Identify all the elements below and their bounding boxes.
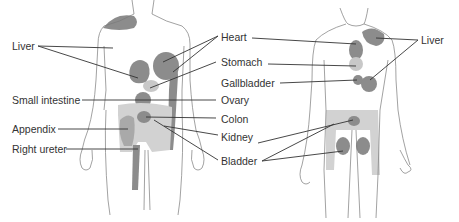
region-front-liver-upper-abdomen (129, 60, 149, 83)
back-neck-outline (340, 8, 368, 26)
label-appendix: Appendix (12, 123, 56, 135)
back-hand-left-outline (300, 165, 310, 184)
label-stomach: Stomach (221, 56, 262, 68)
label-liver-front: Liver (12, 40, 35, 52)
label-liver-back: Liver (421, 34, 444, 46)
front-head-neck-outline (132, 0, 154, 14)
region-back-stomach (349, 57, 363, 71)
leader-heart-back (252, 38, 356, 44)
label-bladder: Bladder (221, 155, 257, 167)
label-small-intestine: Small intestine (12, 94, 80, 106)
back-body (300, 8, 411, 218)
region-back-liver-lower (361, 76, 377, 92)
label-colon: Colon (221, 113, 248, 125)
label-gallbladder: Gallbladder (221, 77, 275, 89)
front-hand-left-outline (80, 150, 93, 170)
leader-liver-2 (38, 46, 138, 78)
label-kidney: Kidney (221, 131, 253, 143)
label-ovary: Ovary (221, 94, 249, 106)
leader-liver-1 (38, 46, 113, 48)
leader-bladder-back-1 (262, 124, 334, 161)
referred-pain-diagram: Liver Small intestine Appendix Right ure… (0, 0, 459, 222)
region-back-kidney-left (336, 137, 350, 155)
region-back-kidney-right (356, 137, 370, 155)
back-hand-right-outline (400, 150, 411, 173)
front-hand-right-outline (191, 150, 204, 170)
region-front-stomach (143, 80, 159, 92)
label-heart: Heart (221, 31, 247, 43)
front-body (80, 0, 204, 215)
label-right-ureter: Right ureter (12, 143, 67, 155)
region-front-ureter (132, 145, 140, 190)
region-front-liver-shoulder (103, 15, 137, 30)
leader-gallbladder (280, 80, 357, 83)
